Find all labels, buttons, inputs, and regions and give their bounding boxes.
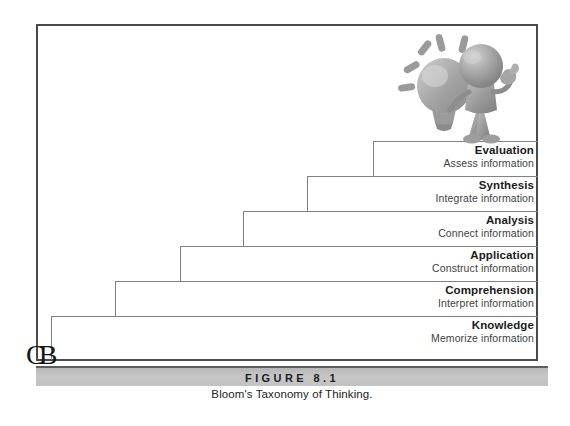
step-subtitle: Assess information <box>443 158 534 170</box>
step-subtitle: Interpret information <box>438 298 534 310</box>
figure-caption-title: Bloom's Taxonomy of Thinking. <box>36 388 548 400</box>
step-title: Knowledge <box>431 319 534 332</box>
step-title: Evaluation <box>443 144 534 157</box>
step-label-group: Synthesis Integrate information <box>436 179 534 205</box>
step-label-group: Knowledge Memorize information <box>431 319 534 345</box>
step-synthesis[interactable]: Synthesis Integrate information <box>307 176 538 211</box>
figure-caption-bar: FIGURE 8.1 <box>36 366 548 386</box>
lightbulb-character-icon <box>392 26 528 144</box>
step-label-group: Comprehension Interpret information <box>438 284 534 310</box>
step-label-group: Analysis Connect information <box>438 214 534 240</box>
step-analysis[interactable]: Analysis Connect information <box>243 211 538 246</box>
figure-container: Evaluation Assess information Synthesis … <box>0 0 570 426</box>
step-subtitle: Construct information <box>432 263 534 275</box>
step-title: Application <box>432 249 534 262</box>
step-knowledge[interactable]: Knowledge Memorize information <box>51 316 538 360</box>
step-subtitle: Connect information <box>438 228 534 240</box>
step-title: Comprehension <box>438 284 534 297</box>
step-comprehension[interactable]: Comprehension Interpret information <box>115 281 538 316</box>
step-label-group: Evaluation Assess information <box>443 144 534 170</box>
step-evaluation[interactable]: Evaluation Assess information <box>373 141 538 176</box>
step-application[interactable]: Application Construct information <box>180 246 538 281</box>
step-subtitle: Integrate information <box>436 193 534 205</box>
figure-number-label: FIGURE 8.1 <box>245 372 339 384</box>
step-title: Analysis <box>438 214 534 227</box>
step-title: Synthesis <box>436 179 534 192</box>
step-label-group: Application Construct information <box>432 249 534 275</box>
step-subtitle: Memorize information <box>431 333 534 345</box>
